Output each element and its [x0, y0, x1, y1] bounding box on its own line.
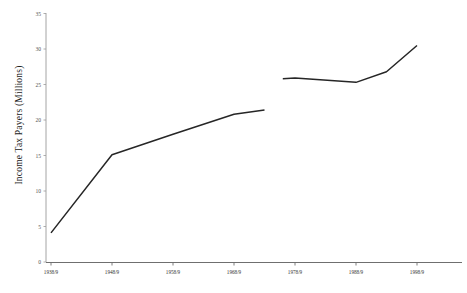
y-axis: 35 30 25 20 15 10 5 0 — [35, 11, 46, 265]
x-tick-label: 1948/9 — [105, 269, 120, 275]
y-tick-label: 25 — [35, 82, 41, 88]
line-chart: Income Tax Payers (Millions) 35 30 25 20… — [0, 0, 467, 293]
x-tick-label: 1978/9 — [288, 269, 303, 275]
y-axis-tick-labels: 35 30 25 20 15 10 5 0 — [35, 11, 41, 265]
x-tick-label: 1958/9 — [166, 269, 181, 275]
x-axis: 1938/9 1948/9 1958/9 1968/9 1978/9 1988/… — [44, 263, 462, 276]
y-tick-label: 20 — [35, 117, 41, 123]
y-tick-label: 0 — [38, 259, 41, 265]
y-tick-label: 35 — [35, 11, 41, 17]
series-line-segment — [283, 45, 417, 82]
y-tick-label: 10 — [35, 188, 41, 194]
x-tick-label: 1938/9 — [44, 269, 59, 275]
y-tick-label: 30 — [35, 46, 41, 52]
series-line-segment — [51, 110, 265, 233]
y-tick-label: 5 — [38, 224, 41, 230]
x-tick-label: 1968/9 — [227, 269, 242, 275]
x-tick-label: 1998/9 — [410, 269, 425, 275]
data-series-group — [51, 45, 417, 232]
x-tick-label: 1988/9 — [349, 269, 364, 275]
plot-area: 35 30 25 20 15 10 5 0 1938/ — [0, 0, 467, 293]
y-tick-label: 15 — [35, 153, 41, 159]
x-axis-tick-labels: 1938/9 1948/9 1958/9 1968/9 1978/9 1988/… — [44, 269, 425, 275]
